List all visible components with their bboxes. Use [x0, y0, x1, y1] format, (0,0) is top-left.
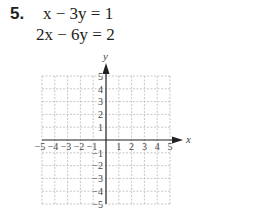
y-tick: −4 [92, 186, 103, 197]
x-tick: −2 [74, 141, 85, 152]
y-axis-arrow-icon [103, 63, 110, 74]
y-tick: 3 [98, 96, 103, 107]
x-axis-label: x [185, 133, 191, 145]
y-tick: 2 [98, 109, 103, 120]
coordinate-grid: x y −5 −4 −3 −2 −1 1 2 3 4 5 5 4 3 2 1 −… [0, 0, 265, 214]
x-tick-labels: −5 −4 −3 −2 −1 1 2 3 4 5 [35, 141, 173, 152]
y-tick: −5 [92, 199, 103, 210]
x-tick: −5 [35, 141, 46, 152]
y-axis [103, 63, 110, 204]
x-tick: −4 [48, 141, 59, 152]
y-tick: −3 [92, 173, 103, 184]
y-tick: −1 [92, 148, 103, 159]
y-tick: 5 [98, 71, 103, 82]
x-tick: −3 [61, 141, 72, 152]
y-tick: 1 [98, 122, 103, 133]
x-tick: 5 [168, 141, 173, 152]
y-tick: 4 [98, 84, 103, 95]
x-tick: 3 [142, 141, 147, 152]
x-tick: 1 [116, 141, 121, 152]
y-tick: −2 [92, 160, 103, 171]
x-axis-arrow-icon [172, 137, 183, 144]
y-axis-label: y [102, 50, 108, 62]
x-tick: 4 [155, 141, 160, 152]
x-tick: 2 [129, 141, 134, 152]
